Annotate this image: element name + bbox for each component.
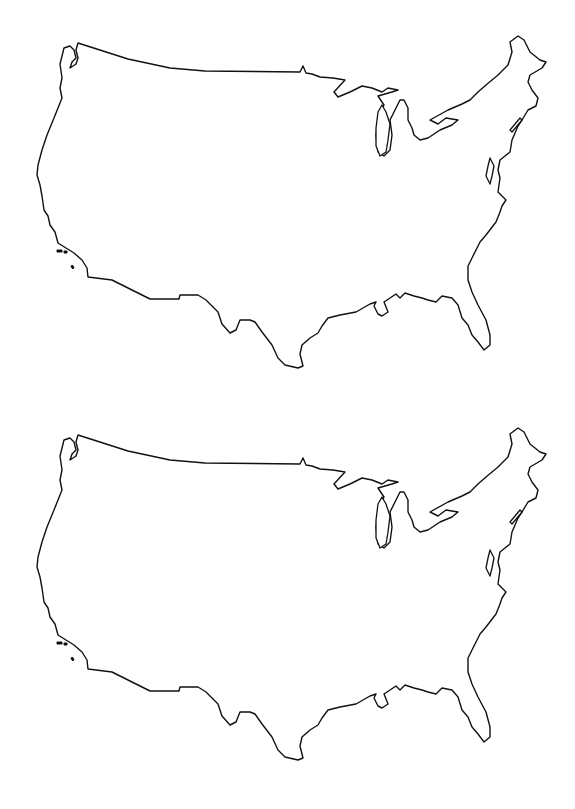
us-outline-map-bottom: United States outline map (bottom) bbox=[0, 392, 575, 792]
us-outline-map-top: United States outline map (top) bbox=[0, 0, 575, 400]
us-outline-svg bbox=[0, 392, 575, 792]
us-outline-svg bbox=[0, 0, 575, 400]
